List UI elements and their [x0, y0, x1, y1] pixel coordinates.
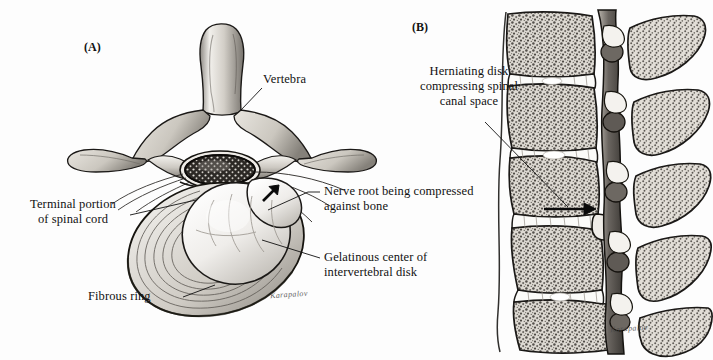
spinous-process: [200, 24, 244, 115]
vertebral-body-5: [513, 300, 609, 353]
panel-tag-b: (B): [412, 20, 428, 35]
label-terminal-portion-of-spinal-cord: Terminal portion of spinal cord: [14, 197, 132, 227]
vertebral-body-4: [511, 226, 603, 293]
label-vertebra: Vertebra: [263, 72, 306, 87]
panel-tag-a: (A): [84, 40, 101, 55]
illustration-artwork: [0, 0, 713, 360]
label-nerve-root-being-compressed: Nerve root being compressed against bone: [324, 184, 514, 214]
label-fibrous-ring: Fibrous ring: [88, 289, 151, 304]
label-gelatinous-center-of-intervertebral-disk: Gelatinous center of intervertebral disk: [324, 250, 427, 280]
medical-illustration-figure: (A) (B) Vertebra Terminal portion of spi…: [0, 0, 713, 360]
label-herniating-disk-compressing-spinal-canal-space: Herniating disk compressing spinal canal…: [396, 64, 542, 109]
